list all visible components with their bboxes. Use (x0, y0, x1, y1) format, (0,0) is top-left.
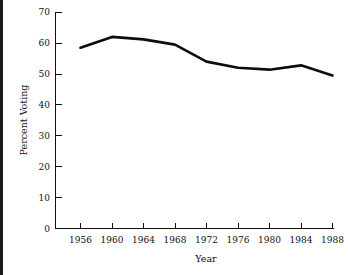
x-tick-label-1984: 1984 (290, 235, 313, 245)
y-tick-label-60: 60 (39, 38, 51, 48)
chart-screenshot: 0 10 20 30 40 50 60 70 1956 1960 1964 19… (0, 0, 348, 275)
y-tick-label-30: 30 (39, 131, 51, 141)
x-tick-label-1980: 1980 (258, 235, 281, 245)
y-axis-title: Percent Voting (18, 85, 29, 156)
x-tick-label-1960: 1960 (101, 235, 124, 245)
x-tick-label-1964: 1964 (132, 235, 155, 245)
line-chart: 0 10 20 30 40 50 60 70 1956 1960 1964 19… (0, 0, 348, 275)
x-tick-label-1968: 1968 (164, 235, 187, 245)
x-axis-ticks (81, 223, 333, 229)
chart-canvas: 0 10 20 30 40 50 60 70 1956 1960 1964 19… (0, 0, 348, 275)
x-tick-label-1988: 1988 (321, 235, 344, 245)
data-line-percent-voting (81, 37, 333, 76)
y-tick-label-40: 40 (39, 100, 51, 110)
x-tick-labels: 1956 1960 1964 1968 1972 1976 1980 1984 … (69, 235, 344, 245)
y-tick-label-50: 50 (39, 69, 51, 79)
x-tick-label-1976: 1976 (227, 235, 250, 245)
y-tick-label-20: 20 (39, 162, 51, 172)
y-tick-label-0: 0 (44, 224, 50, 234)
y-tick-labels: 0 10 20 30 40 50 60 70 (39, 7, 51, 233)
x-tick-label-1972: 1972 (195, 235, 218, 245)
x-tick-label-1956: 1956 (69, 235, 92, 245)
y-tick-label-10: 10 (39, 193, 51, 203)
y-axis-ticks (56, 12, 62, 228)
y-tick-label-70: 70 (39, 7, 51, 17)
x-axis-title: Year (194, 253, 217, 264)
